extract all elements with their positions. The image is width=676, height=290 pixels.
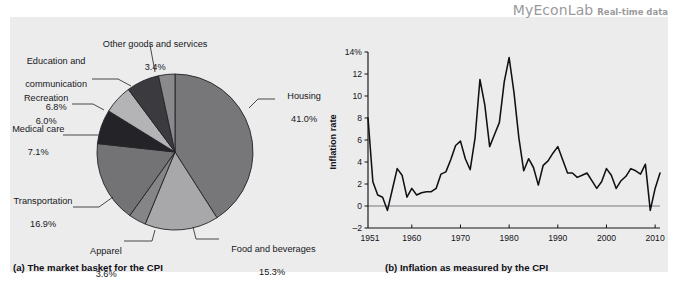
line-chart-x-tick-labels: 1951196019701980199020002010	[360, 233, 664, 243]
y-axis-label: Inflation rate	[328, 114, 338, 169]
x-tick-label: 1960	[402, 233, 421, 243]
x-tick-label: 1990	[548, 233, 567, 243]
x-tick-label: 2010	[646, 233, 665, 243]
y-tick-label: 6	[357, 135, 362, 145]
y-tick-label: 10	[352, 91, 362, 101]
y-tick-label: 8	[357, 113, 362, 123]
y-tick-label: 14%	[345, 47, 363, 57]
inflation-series-line	[368, 58, 660, 211]
line-chart-y-tick-labels: 14%121086420–2	[345, 47, 363, 233]
line-chart: 14%121086420–2 1951196019701980199020002…	[0, 0, 676, 290]
y-tick-label: 2	[357, 179, 362, 189]
x-tick-label: 1951	[360, 233, 379, 243]
y-tick-label: 12	[352, 69, 362, 79]
y-tick-label: 0	[357, 201, 362, 211]
line-chart-ticks	[365, 52, 656, 228]
x-tick-label: 1970	[451, 233, 470, 243]
x-tick-label: 1980	[500, 233, 519, 243]
y-tick-label: 4	[357, 157, 362, 167]
figure-root: MyEconLab Real-time data Other goods and…	[0, 0, 676, 290]
caption-line: (b) Inflation as measured by the CPI	[385, 262, 548, 273]
x-tick-label: 2000	[597, 233, 616, 243]
